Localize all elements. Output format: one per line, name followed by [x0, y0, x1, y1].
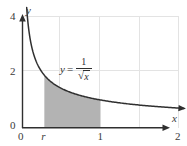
x-tick-label-2: 2: [175, 131, 181, 142]
equation-lhs: y: [60, 64, 65, 75]
x-axis-label: x: [172, 113, 177, 124]
curve-overlay: [0, 0, 187, 146]
equation-equals-sign: =: [67, 64, 73, 75]
equation-denominator: √ x: [76, 69, 92, 83]
y-tick-label-4: 4: [10, 11, 16, 22]
y-tick-label-0: 0: [10, 120, 16, 131]
y-axis-label: y: [26, 5, 31, 16]
x-tick-label-1: 1: [98, 131, 104, 142]
square-root-icon: √ x: [78, 70, 90, 83]
curve-equation-label: y = 1 √ x: [60, 57, 92, 83]
equation-numerator: 1: [79, 57, 88, 68]
figure-container: 0 r 1 2 0 2 4 y x y = 1 √ x: [0, 0, 187, 146]
x-tick-label-r: r: [41, 131, 45, 142]
x-tick-label-0: 0: [18, 131, 24, 142]
y-tick-label-2: 2: [10, 66, 16, 77]
curve-main: [26, 17, 164, 73]
radicand: x: [83, 70, 89, 83]
equation-fraction: 1 √ x: [76, 57, 92, 83]
